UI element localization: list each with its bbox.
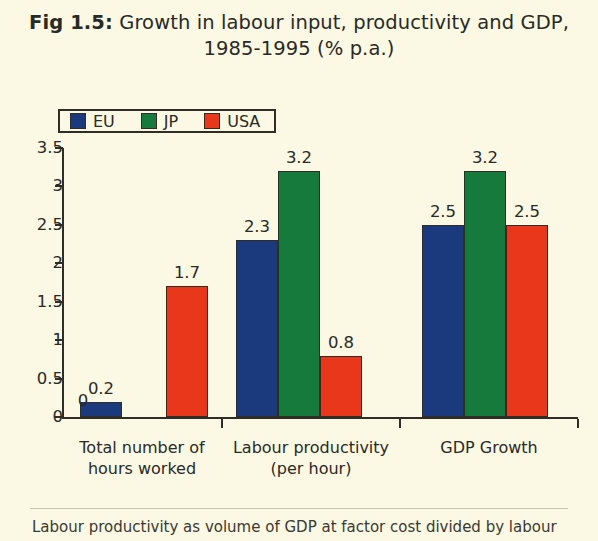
bar-eu-group-2[interactable] bbox=[236, 240, 278, 417]
footnote-divider bbox=[30, 508, 568, 509]
y-axis-tick-label: 2.5 bbox=[15, 215, 63, 234]
category-label-line: Total number of bbox=[62, 437, 222, 458]
x-axis-category-label-3: GDP Growth bbox=[400, 437, 578, 458]
bar-value-label-usa-group-3: 2.5 bbox=[491, 202, 563, 221]
x-axis-tick bbox=[399, 419, 401, 428]
bar-jp-group-2[interactable] bbox=[278, 171, 320, 417]
x-axis-category-label-2: Labour productivity(per hour) bbox=[222, 437, 400, 479]
category-label-line: hours worked bbox=[62, 458, 222, 479]
y-axis-tick-label: 3.5 bbox=[15, 138, 63, 157]
bar-value-label-jp-group-3: 3.2 bbox=[449, 148, 521, 167]
bar-eu-group-3[interactable] bbox=[422, 225, 464, 417]
bar-value-label-usa-group-1: 1.7 bbox=[151, 263, 223, 282]
x-axis-category-label-1: Total number ofhours worked bbox=[62, 437, 222, 479]
y-axis-tick-label: 2 bbox=[15, 253, 63, 272]
y-axis-tick-label: 1 bbox=[15, 330, 63, 349]
category-label-line: Labour productivity bbox=[222, 437, 400, 458]
bar-usa-group-2[interactable] bbox=[320, 356, 362, 417]
bar-value-label-jp-group-2: 3.2 bbox=[263, 148, 335, 167]
chart-plot-area: 00.511.522.533.50.201.72.33.20.82.53.22.… bbox=[0, 0, 598, 541]
bar-usa-group-1[interactable] bbox=[166, 286, 208, 417]
x-axis-tick bbox=[221, 419, 223, 428]
y-axis-tick-label: 3 bbox=[15, 176, 63, 195]
x-axis-line bbox=[62, 417, 578, 419]
category-label-line: (per hour) bbox=[222, 458, 400, 479]
y-axis-tick-label: 1.5 bbox=[15, 292, 63, 311]
bar-usa-group-3[interactable] bbox=[506, 225, 548, 417]
footnote-text: Labour productivity as volume of GDP at … bbox=[32, 517, 572, 537]
y-axis-tick-label: 0.5 bbox=[15, 369, 63, 388]
bar-value-label-usa-group-2: 0.8 bbox=[305, 333, 377, 352]
category-label-line: GDP Growth bbox=[400, 437, 578, 458]
x-axis-tick bbox=[577, 419, 579, 428]
bar-value-label-jp-group-1: 0 bbox=[47, 391, 119, 410]
